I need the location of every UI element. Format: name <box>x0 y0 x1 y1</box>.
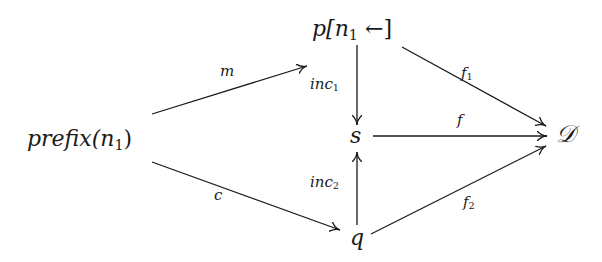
label-inc2-base: inc <box>310 173 333 191</box>
label-inc1-sub: 1 <box>333 82 339 93</box>
label-f2: f2 <box>463 195 475 211</box>
node-prefix-sub: 1 <box>114 137 123 153</box>
node-prefix: prefix(n1) <box>27 128 132 152</box>
label-m: m <box>220 64 234 79</box>
arrow-f1 <box>402 47 546 126</box>
label-f1: f1 <box>461 66 473 82</box>
node-prefix-close: ) <box>124 126 133 151</box>
label-c: c <box>214 188 222 203</box>
arrow-f2 <box>371 146 546 234</box>
node-p-arrow: ←] <box>358 16 392 41</box>
label-inc2: inc2 <box>310 175 339 191</box>
label-f2-sub: 2 <box>469 200 475 211</box>
node-prefix-base: prefix(n <box>27 126 114 151</box>
node-p-base: p[n <box>312 16 349 41</box>
label-f1-sub: 1 <box>467 71 473 82</box>
node-q: q <box>350 227 364 249</box>
node-p-sub: 1 <box>349 27 358 43</box>
label-f: f <box>457 113 463 128</box>
label-inc1-base: inc <box>310 75 333 93</box>
node-s: s <box>350 125 361 147</box>
label-inc1: inc1 <box>310 77 339 93</box>
node-D: 𝒟 <box>556 122 575 146</box>
node-p: p[n1 ←] <box>312 18 392 42</box>
commutative-diagram: prefix(n1) p[n1 ←] s q 𝒟 m c inc1 inc2 f… <box>0 0 602 262</box>
label-inc2-sub: 2 <box>333 180 339 191</box>
